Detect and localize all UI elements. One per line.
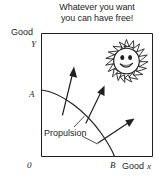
ppf-free-lunch-figure: Whatever you want you can have free!: [0, 0, 159, 182]
propulsion-arrow-2: [86, 86, 105, 124]
propulsion-arrow-1: [63, 67, 78, 116]
sun-eye-right: [128, 55, 132, 60]
point-a-label: A: [29, 89, 35, 99]
y-axis-label: Good: [11, 27, 33, 37]
point-b-label: B: [110, 160, 116, 170]
y-axis-variable: Y: [31, 39, 36, 49]
propulsion-annotation: Propulsion: [44, 128, 87, 138]
x-axis-label: Good: [122, 161, 144, 171]
smiling-sun-icon: [106, 40, 148, 83]
origin-label: 0: [27, 160, 32, 170]
x-axis-variable: x: [147, 161, 151, 171]
sun-eye-left: [120, 55, 124, 60]
propulsion-arrow-3: [98, 119, 135, 144]
